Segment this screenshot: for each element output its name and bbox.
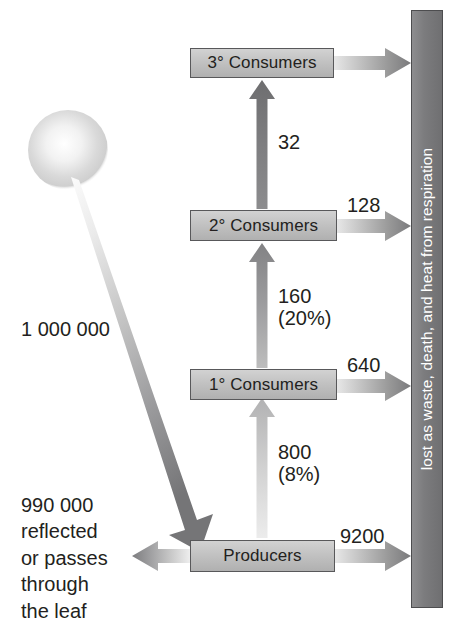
node-producers-label: Producers	[223, 546, 301, 566]
label-primary-to-secondary-value: 160	[278, 285, 331, 307]
node-tertiary-consumers-label: 3° Consumers	[207, 53, 316, 73]
label-secondary-loss: 128	[347, 194, 380, 216]
label-incoming-sunlight: 1 000 000	[21, 318, 110, 340]
node-producers: Producers	[190, 540, 335, 572]
arrow-reflected-light	[132, 541, 190, 571]
loss-bar: lost as waste, death, and heat from resp…	[411, 10, 443, 608]
label-reflected-line-3: through	[21, 571, 108, 597]
loss-bar-label: lost as waste, death, and heat from resp…	[418, 148, 436, 471]
label-primary-loss: 640	[347, 354, 380, 376]
node-secondary-consumers-label: 2° Consumers	[209, 216, 318, 236]
node-secondary-consumers: 2° Consumers	[190, 210, 337, 241]
label-primary-to-secondary-percent: (20%)	[278, 307, 331, 329]
label-reflected-sunlight: 990 000 reflected or passes through the …	[21, 492, 108, 624]
label-primary-to-secondary: 160 (20%)	[278, 285, 331, 330]
label-reflected-line-1: reflected	[21, 518, 108, 544]
arrow-primary-to-secondary	[249, 243, 275, 368]
node-primary-consumers-label: 1° Consumers	[209, 375, 318, 395]
label-producers-to-primary-percent: (8%)	[278, 463, 320, 485]
energy-flow-diagram: 3° Consumers 2° Consumers 1° Consumers P…	[0, 0, 459, 638]
arrow-secondary-to-tertiary	[249, 80, 275, 209]
label-secondary-to-tertiary: 32	[278, 131, 300, 153]
label-reflected-line-4: the leaf	[21, 598, 108, 624]
label-producers-to-primary-value: 800	[278, 441, 320, 463]
label-reflected-line-2: or passes	[21, 545, 108, 571]
arrow-tertiary-to-loss	[334, 48, 411, 78]
node-primary-consumers: 1° Consumers	[190, 369, 337, 400]
label-producers-loss: 9200	[340, 525, 385, 547]
node-tertiary-consumers: 3° Consumers	[190, 48, 334, 78]
arrow-producers-to-primary	[249, 398, 275, 538]
sun-icon	[28, 110, 108, 190]
label-producers-to-primary: 800 (8%)	[278, 441, 320, 486]
label-reflected-line-0: 990 000	[21, 492, 108, 518]
